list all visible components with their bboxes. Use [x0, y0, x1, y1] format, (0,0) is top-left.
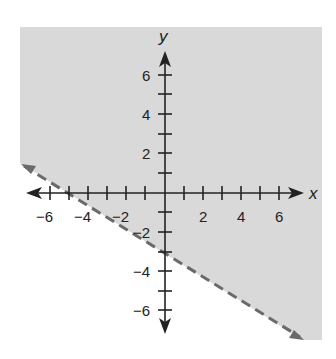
- y-tick-label: 6: [142, 67, 150, 84]
- y-tick-label: −4: [133, 263, 150, 280]
- y-tick-label: 4: [142, 106, 150, 123]
- y-axis-label: y: [158, 27, 169, 46]
- x-tick-label: 4: [237, 208, 245, 225]
- x-tick-label: −4: [74, 208, 91, 225]
- x-axis-label: x: [308, 184, 318, 203]
- x-tick-label: −2: [112, 208, 129, 225]
- x-tick-label: −6: [36, 208, 53, 225]
- shaded-region: [20, 27, 322, 340]
- x-tick-label: 6: [275, 208, 283, 225]
- y-tick-label: −2: [133, 224, 150, 241]
- x-tick-label: 2: [199, 208, 207, 225]
- y-tick-label: 2: [142, 145, 150, 162]
- y-tick-label: −6: [133, 302, 150, 319]
- inequality-graph: x y −6 −4 −2 2 4 6 6 4 2 −2 −4 −6: [0, 0, 336, 359]
